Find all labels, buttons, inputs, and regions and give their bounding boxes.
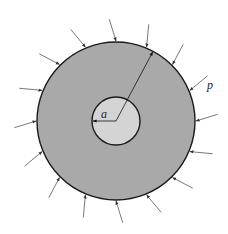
pressure-label: p (206, 78, 213, 92)
pressure-arrow (25, 152, 43, 167)
pressure-arrow (147, 24, 149, 47)
pressure-arrow (190, 152, 213, 154)
pressure-arrow (83, 195, 85, 218)
pressure-arrow (173, 178, 193, 189)
pressure-arrow (173, 44, 184, 64)
pressure-arrow (116, 201, 123, 223)
pressure-arrow (190, 76, 208, 91)
pressure-vessel-diagram: a p (0, 0, 228, 234)
pressure-arrow (147, 195, 162, 213)
pressure-arrow (39, 54, 59, 65)
pressure-arrow (49, 178, 60, 198)
pressure-arrow (109, 19, 116, 41)
pressure-arrow (196, 114, 218, 121)
inner-radius-label: a (101, 107, 107, 121)
pressure-arrow (14, 121, 36, 128)
pressure-arrow (71, 30, 86, 48)
pressure-arrow (19, 88, 42, 90)
